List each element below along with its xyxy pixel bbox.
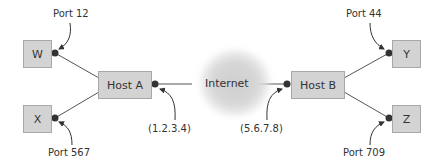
port-567-label: Port 567 [48,147,90,158]
node-z: Z [392,105,421,133]
internet-label: Internet [205,77,249,90]
port-dot-host-a [152,81,159,88]
address-host-a-label: (1.2.3.4) [148,123,191,134]
arrow-addr-b [267,89,282,120]
arrow-addr-a [160,89,175,120]
node-x: X [23,105,52,133]
port-12-label: Port 12 [53,8,89,19]
node-host-b: Host B [291,71,345,99]
port-dot-host-b [284,81,291,88]
node-y: Y [392,40,421,68]
address-host-b-label: (5.6.7.8) [240,123,283,134]
port-44-label: Port 44 [346,8,382,19]
port-dot-w [52,50,59,57]
port-dot-x [52,115,59,122]
edge-x-host-a [55,92,99,118]
edge-w-host-a [55,53,99,78]
arrow-port-709 [370,122,384,145]
arrow-port-12 [59,23,71,49]
edge-host-b-y [344,53,389,78]
node-w: W [23,40,52,68]
node-host-a: Host A [98,71,152,99]
arrow-port-567 [59,122,72,145]
port-709-label: Port 709 [343,147,385,158]
edge-host-b-z [344,92,389,118]
arrow-port-44 [370,23,384,49]
